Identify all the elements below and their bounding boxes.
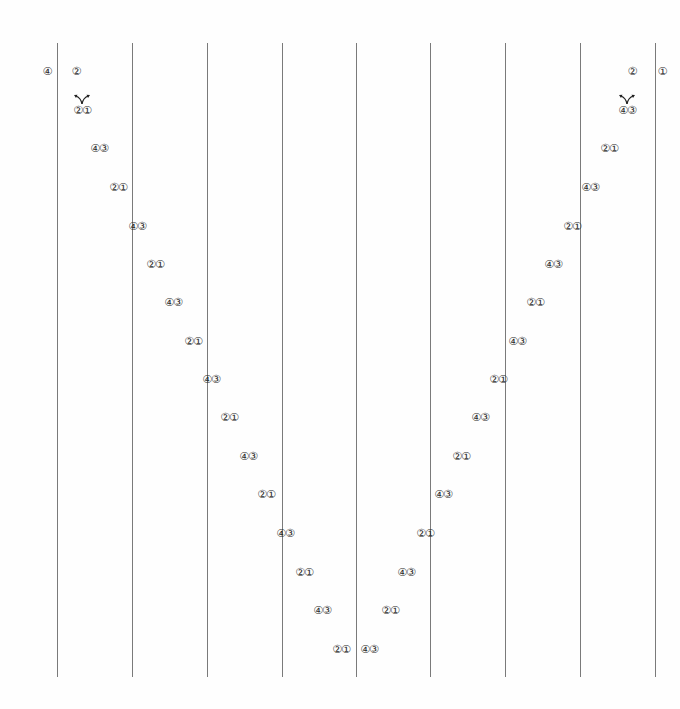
crossing-label-left: ④③ (90, 143, 108, 154)
split-arrows-icon (618, 94, 636, 104)
vertical-strand-line (132, 43, 133, 677)
strand-start-label: ② (72, 66, 81, 77)
strand-start-label: ② (628, 66, 637, 77)
crossing-label-right: ②① (452, 451, 470, 462)
strand-start-label: ① (658, 66, 667, 77)
crossing-label-left: ④③ (164, 297, 182, 308)
crossing-label-right: ④③ (618, 105, 636, 116)
crossing-label-left: ②① (184, 336, 202, 347)
crossing-label-left: ②① (73, 105, 91, 116)
crossing-label-right: ②① (416, 528, 434, 539)
vertical-strand-line (580, 43, 581, 677)
strand-start-label: ④ (43, 66, 52, 77)
crossing-label-left: ②① (109, 182, 127, 193)
crossing-label-left: ④③ (276, 528, 294, 539)
crossing-label-right: ④③ (581, 182, 599, 193)
crossing-label-left: ④③ (128, 221, 146, 232)
crossing-label-right: ④③ (544, 259, 562, 270)
vertical-strand-line (356, 43, 357, 677)
crossing-label-left: ④③ (313, 605, 331, 616)
crossing-label-left: ④③ (239, 451, 257, 462)
vertical-strand-line (430, 43, 431, 677)
crossing-label-right: ④③ (471, 412, 489, 423)
vertical-strand-line (282, 43, 283, 677)
crossing-label-right: ②① (381, 605, 399, 616)
crossing-label-left: ②① (220, 412, 238, 423)
crossing-label-left: ②① (332, 644, 350, 655)
split-arrows-icon (73, 94, 91, 104)
crossing-label-left: ②① (146, 259, 164, 270)
crossing-label-right: ④③ (434, 489, 452, 500)
crossing-label-right: ④③ (397, 567, 415, 578)
crossing-label-left: ②① (257, 489, 275, 500)
crossing-label-left: ④③ (202, 374, 220, 385)
vertical-strand-line (505, 43, 506, 677)
crossing-label-left: ②① (295, 567, 313, 578)
vertical-strand-line (655, 43, 656, 677)
vertical-strand-line (57, 43, 58, 677)
crossing-label-right: ④③ (508, 336, 526, 347)
crossing-label-right: ④③ (360, 644, 378, 655)
crossing-label-right: ②① (563, 221, 581, 232)
vertical-strand-line (207, 43, 208, 677)
crossing-label-right: ②① (526, 297, 544, 308)
crossing-label-right: ②① (600, 143, 618, 154)
crossing-label-right: ②① (489, 374, 507, 385)
